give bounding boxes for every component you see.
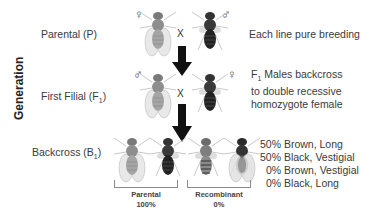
parental-bracket xyxy=(114,180,178,188)
cross-symbol: X xyxy=(177,88,184,99)
fly-brown-long-female xyxy=(138,6,178,58)
result-black-vestigial: 50% Black, Vestigial xyxy=(260,151,359,164)
parental-caption: Parental 100% xyxy=(114,190,178,210)
fly-backcross-black-vestigial xyxy=(148,132,188,184)
fly-backcross-brown-long xyxy=(112,132,152,184)
fly-f1-female xyxy=(190,68,230,120)
cross-symbol: X xyxy=(177,28,184,39)
result-brown-long: 50% Brown, Long xyxy=(260,138,359,151)
row-label-backcross: Backcross (B1) xyxy=(32,146,101,160)
recombinant-caption: Recombinant 0% xyxy=(184,190,254,210)
results-list: 50% Brown, Long 50% Black, Vestigial 0% … xyxy=(260,138,359,190)
fly-black-vestigial-male xyxy=(190,6,230,58)
result-black-long: 0% Black, Long xyxy=(260,177,359,190)
parental-description: Each line pure breeding xyxy=(249,28,360,41)
row-label-parental: Parental (P) xyxy=(41,28,97,40)
fly-backcross-brown-vestigial xyxy=(186,132,226,184)
generation-axis-label: Generation xyxy=(12,57,26,120)
f1-description: F1 Males backcross to double recessive h… xyxy=(251,68,343,111)
row-label-f1: First Filial (F1) xyxy=(41,90,106,104)
result-brown-vestigial: 0% Brown, Vestigial xyxy=(260,164,359,177)
fly-backcross-black-long xyxy=(222,132,262,184)
recombinant-bracket xyxy=(187,180,251,188)
fly-f1-male xyxy=(138,68,178,120)
